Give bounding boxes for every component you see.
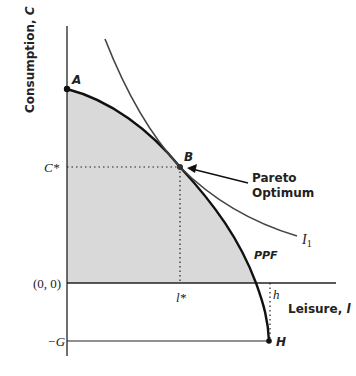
- x-axis-label: Leisure, l: [288, 302, 351, 316]
- neg-g-label: −G: [47, 334, 66, 349]
- point-h-label: H: [276, 335, 286, 349]
- indifference-label: I1: [301, 232, 312, 249]
- origin-label: (0, 0): [33, 276, 61, 291]
- point-b-marker: [177, 164, 183, 170]
- ppf-diagram: Consumption, C A B H C* (0, 0) −G l* h L…: [0, 0, 356, 376]
- pareto-arrow-head: [187, 164, 197, 173]
- h-label: h: [273, 287, 280, 302]
- point-a-label: A: [71, 73, 81, 87]
- y-axis-label: Consumption, C: [23, 6, 37, 113]
- l-star-label: l*: [176, 290, 187, 305]
- pareto-optimum-label: Pareto Optimum: [252, 171, 314, 200]
- c-star-label: C*: [44, 160, 60, 175]
- ppf-label: PPF: [254, 249, 278, 262]
- point-a-marker: [64, 86, 70, 92]
- point-b-label: B: [184, 150, 193, 164]
- feasible-region: [67, 89, 256, 283]
- pareto-arrow-line: [192, 169, 248, 183]
- point-h-marker: [266, 338, 272, 344]
